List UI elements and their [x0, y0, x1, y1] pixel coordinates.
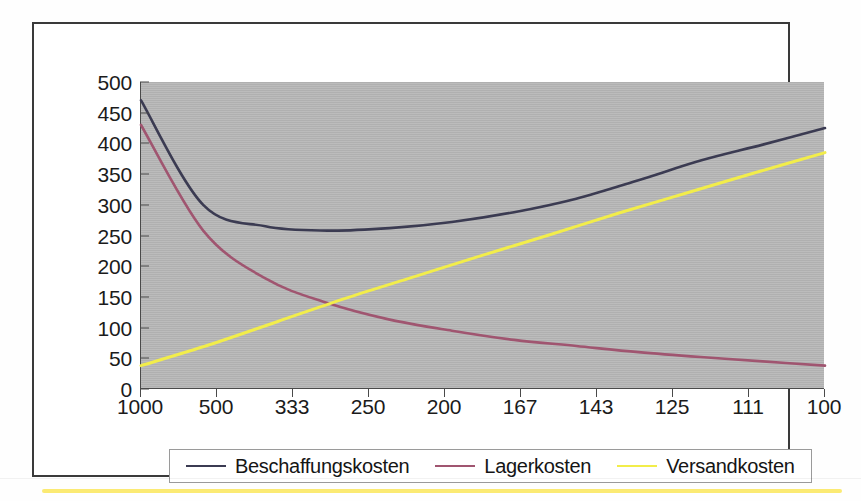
y-axis-tick-mark	[140, 358, 149, 359]
y-axis-tick-mark	[140, 266, 149, 267]
plot-area	[140, 82, 824, 389]
x-axis-tick-mark	[520, 389, 521, 397]
y-axis-tick-mark	[140, 296, 149, 297]
x-axis-tick-label: 143	[579, 396, 613, 417]
x-axis-tick-mark	[140, 389, 141, 397]
y-axis-tick-label: 200	[76, 256, 132, 277]
x-axis-tick-mark	[292, 389, 293, 397]
legend-line-swatch-icon	[617, 465, 657, 467]
x-axis-tick-label: 167	[503, 396, 537, 417]
scanned-page: 050100150200250300350400450500 100050033…	[0, 0, 861, 501]
y-axis-tick-label: 50	[76, 348, 132, 369]
y-axis-tick-label: 350	[76, 164, 132, 185]
x-axis-tick-mark	[216, 389, 217, 397]
y-axis-tick-mark	[140, 235, 149, 236]
x-axis-tick-label: 250	[351, 396, 385, 417]
y-axis-tick-label: 150	[76, 286, 132, 307]
x-axis-tick-mark	[748, 389, 749, 397]
y-axis-tick-label: 100	[76, 317, 132, 338]
x-axis-tick-label: 1000	[117, 396, 163, 417]
x-axis-labels: 1000500333250200167143125111100	[140, 396, 824, 426]
x-axis-tick-mark	[368, 389, 369, 397]
y-axis-labels: 050100150200250300350400450500	[68, 82, 132, 389]
series-layer	[141, 82, 825, 389]
legend-line-swatch-icon	[435, 465, 475, 467]
y-axis-tick-mark	[140, 112, 149, 113]
x-axis-tick-label: 200	[427, 396, 461, 417]
y-axis-tick-mark	[140, 82, 149, 83]
y-axis-tick-label: 450	[76, 102, 132, 123]
y-axis-tick-mark	[140, 143, 149, 144]
scan-edge-line	[0, 478, 861, 479]
y-axis-tick-label: 300	[76, 194, 132, 215]
yellow-highlight-artifact	[42, 489, 842, 493]
series-line-versandkosten	[141, 153, 825, 366]
y-axis-tick-mark	[140, 174, 149, 175]
legend-entry[interactable]: Lagerkosten	[435, 456, 591, 476]
y-axis-tick-mark	[140, 327, 149, 328]
x-axis-tick-label: 500	[199, 396, 233, 417]
y-axis-tick-mark	[140, 389, 149, 390]
y-axis-tick-label: 400	[76, 133, 132, 154]
legend-entry[interactable]: Versandkosten	[617, 456, 794, 476]
y-axis-tick-label: 250	[76, 225, 132, 246]
x-axis-tick-label: 125	[655, 396, 689, 417]
x-axis-tick-mark	[444, 389, 445, 397]
x-axis-tick-label: 333	[275, 396, 309, 417]
x-axis-tick-mark	[672, 389, 673, 397]
series-line-lagerkosten	[141, 125, 825, 366]
legend-entry[interactable]: Beschaffungskosten	[186, 456, 409, 476]
x-axis-tick-label: 100	[807, 396, 841, 417]
y-axis-tick-mark	[140, 204, 149, 205]
y-axis-tick-label: 500	[76, 72, 132, 93]
x-axis-tick-mark	[596, 389, 597, 397]
legend-label: Versandkosten	[666, 456, 794, 476]
series-line-beschaffungskosten	[141, 100, 825, 230]
x-axis-tick-mark	[824, 389, 825, 397]
legend-label: Lagerkosten	[484, 456, 591, 476]
x-axis-tick-label: 111	[732, 396, 763, 417]
chart-frame: 050100150200250300350400450500 100050033…	[32, 22, 790, 477]
legend-line-swatch-icon	[186, 465, 226, 467]
legend-label: Beschaffungskosten	[235, 456, 409, 476]
